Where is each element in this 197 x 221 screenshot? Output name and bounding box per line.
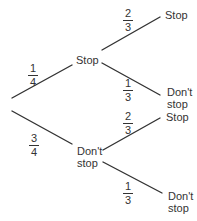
node-dont-stop-line1: Don't xyxy=(77,145,102,157)
branch-root-to-stop xyxy=(12,65,72,98)
denominator: 3 xyxy=(123,194,133,206)
denominator: 3 xyxy=(123,21,133,33)
leaf-dontstop-dont-stop-line1: Don't xyxy=(168,190,193,202)
leaf-stop-dont-stop-line1: Don't xyxy=(167,86,192,98)
probability-dontstop-stop: 2 3 xyxy=(123,111,133,136)
leaf-stop-stop: Stop xyxy=(165,9,188,21)
denominator: 3 xyxy=(123,124,133,136)
numerator: 3 xyxy=(29,133,39,146)
node-stop: Stop xyxy=(76,54,99,66)
numerator: 1 xyxy=(28,63,38,76)
numerator: 1 xyxy=(123,181,133,194)
node-dont-stop-line2: stop xyxy=(77,157,98,169)
probability-dontstop-dont-stop: 1 3 xyxy=(123,181,133,206)
leaf-dontstop-dont-stop-line2: stop xyxy=(168,202,189,214)
branch-root-to-dont-stop xyxy=(12,111,72,144)
numerator: 2 xyxy=(123,8,133,21)
numerator: 2 xyxy=(123,111,133,124)
denominator: 4 xyxy=(29,146,39,158)
leaf-dontstop-stop: Stop xyxy=(166,111,189,123)
probability-root-stop: 1 4 xyxy=(28,63,38,88)
denominator: 3 xyxy=(123,91,133,103)
probability-stop-dont-stop: 1 3 xyxy=(123,78,133,103)
probability-stop-stop: 2 3 xyxy=(123,8,133,33)
numerator: 1 xyxy=(123,78,133,91)
probability-root-dont-stop: 3 4 xyxy=(29,133,39,158)
denominator: 4 xyxy=(28,76,38,88)
leaf-stop-dont-stop-line2: stop xyxy=(167,98,188,110)
